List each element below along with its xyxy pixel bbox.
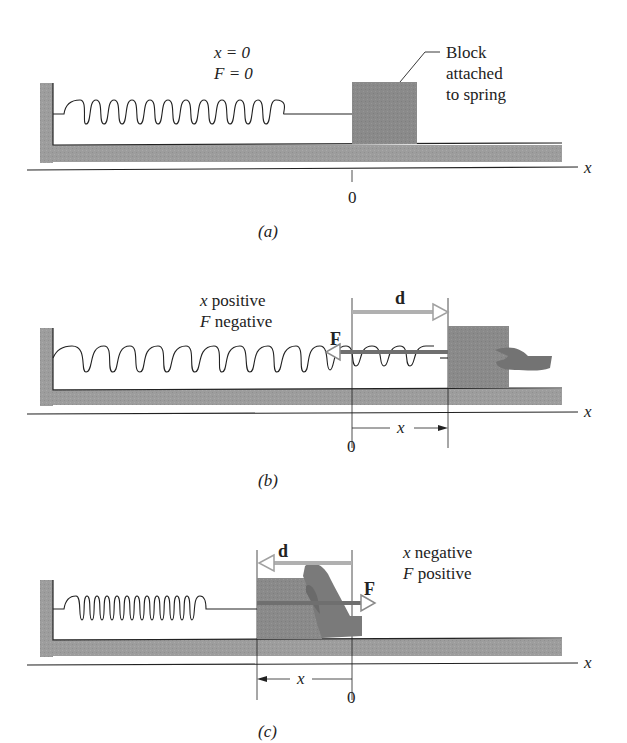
callout-to-spring: to spring	[446, 85, 506, 104]
state-x-positive: x positive	[199, 291, 266, 310]
caption-a: (a)	[258, 222, 278, 241]
displacement-label-d: d	[395, 288, 405, 308]
x-dimension-label: x	[396, 418, 405, 437]
spring	[53, 596, 257, 620]
spring	[53, 346, 448, 372]
origin-label: 0	[347, 688, 356, 707]
origin-label: 0	[348, 188, 357, 207]
x-axis	[27, 663, 578, 665]
panel-c: d F x negative F positive x x 0 (c)	[27, 541, 592, 741]
displacement-label-d: d	[278, 541, 288, 561]
x-axis	[27, 412, 578, 414]
x-axis	[27, 167, 578, 170]
callout-block: Block	[446, 43, 487, 62]
state-x-negative: x negative	[402, 543, 472, 562]
block	[448, 326, 509, 388]
callout-leader	[400, 52, 425, 82]
callout-attached: attached	[446, 64, 503, 83]
state-f-equals-zero: F = 0	[213, 64, 253, 83]
axis-label-x: x	[583, 402, 592, 421]
spring	[53, 100, 352, 124]
state-f-negative: F negative	[199, 312, 272, 331]
block	[352, 82, 417, 144]
panel-a: Block attached to spring x = 0 F = 0 x 0…	[27, 43, 592, 241]
caption-c: (c)	[258, 722, 277, 741]
force-label-f: F	[364, 579, 375, 599]
force-label-f: F	[330, 329, 341, 349]
axis-label-x: x	[583, 158, 592, 177]
axis-label-x: x	[583, 653, 592, 672]
origin-label: 0	[347, 437, 356, 456]
panel-b: d F x positive F negative x x 0 (b)	[27, 288, 592, 490]
x-dimension-label: x	[296, 669, 305, 688]
state-f-positive: F positive	[402, 564, 471, 583]
state-x-equals-zero: x = 0	[213, 43, 251, 62]
caption-b: (b)	[258, 471, 278, 490]
spring-block-diagram: Block attached to spring x = 0 F = 0 x 0…	[0, 0, 627, 743]
